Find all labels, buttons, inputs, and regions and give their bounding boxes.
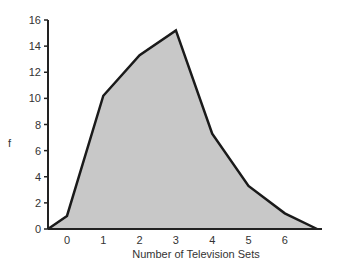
- x-axis: 0123456: [48, 229, 322, 246]
- plot-area: [48, 30, 317, 229]
- y-tick-label: 8: [35, 119, 41, 131]
- y-tick-label: 6: [35, 145, 41, 157]
- y-tick-label: 2: [35, 197, 41, 209]
- x-tick-label: 1: [100, 234, 106, 246]
- x-tick-label: 5: [245, 234, 251, 246]
- y-tick-label: 12: [29, 66, 41, 78]
- x-tick-label: 3: [173, 234, 179, 246]
- y-axis: 0246810121416: [29, 14, 48, 235]
- y-tick-label: 16: [29, 14, 41, 26]
- filled-area: [48, 30, 317, 229]
- x-tick-label: 2: [137, 234, 143, 246]
- x-tick-label: 4: [209, 234, 215, 246]
- y-tick-label: 0: [35, 223, 41, 235]
- y-tick-label: 10: [29, 92, 41, 104]
- x-tick-label: 6: [282, 234, 288, 246]
- x-tick-label: 0: [64, 234, 70, 246]
- y-tick-label: 14: [29, 40, 41, 52]
- y-axis-title: f: [8, 137, 12, 149]
- y-tick-label: 4: [35, 171, 41, 183]
- frequency-polygon-chart: 0246810121416 0123456 f Number of Televi…: [0, 0, 343, 274]
- x-axis-title: Number of Television Sets: [132, 248, 260, 260]
